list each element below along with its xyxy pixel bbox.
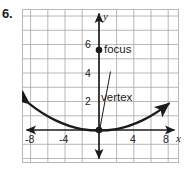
x-axis-label: x: [176, 133, 181, 144]
focus-label: focus: [104, 44, 132, 56]
coordinate-plane: [22, 9, 179, 163]
figure-root: 6.: [0, 0, 195, 169]
vertex-label: vertex: [101, 92, 132, 104]
x-tick-label-4: 4: [130, 134, 136, 145]
y-tick-label-6: 6: [85, 39, 91, 50]
vertex-point: [96, 127, 103, 134]
plot-border: [23, 10, 179, 163]
problem-number: 6.: [2, 6, 12, 21]
y-tick-label-4: 4: [85, 68, 91, 79]
x-tick-label-minus8: -8: [25, 134, 34, 145]
x-tick-label-8: 8: [163, 134, 169, 145]
y-axis-label: y: [103, 11, 108, 22]
focus-point: [96, 47, 103, 54]
y-tick-label-2: 2: [85, 96, 91, 107]
x-tick-label-minus4: -4: [59, 134, 68, 145]
